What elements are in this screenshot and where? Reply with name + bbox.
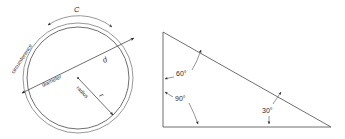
triangle-figure: 60° 90° 30° (163, 32, 331, 127)
angle-top-label: 60° (176, 70, 187, 77)
diagram-canvas: circumference C diameter d radius r 60° … (0, 0, 345, 139)
angle-left-leader-side (165, 92, 173, 97)
angle-right-label: 30° (262, 107, 273, 114)
angle-top-leader-side (165, 77, 174, 79)
circumference-symbol-label: C (74, 5, 80, 14)
geometry-figure: circumference C diameter d radius r 60° … (0, 0, 345, 139)
diameter-symbol-label: d (101, 55, 109, 65)
circle-figure: circumference C diameter d radius r (10, 5, 134, 133)
right-triangle-outline (163, 32, 331, 127)
angle-left-label: 90° (175, 95, 186, 102)
angle-left-leader (189, 103, 198, 124)
diameter-label: diameter (41, 73, 63, 88)
radius-label: radius (75, 85, 90, 100)
circumference-arc-arrow (48, 16, 112, 27)
diameter-line (22, 38, 134, 93)
circle-center-point (77, 77, 79, 79)
angle-top-leader (192, 50, 201, 70)
circumference-label: circumference (10, 43, 33, 75)
radius-symbol-label: r (98, 91, 107, 99)
